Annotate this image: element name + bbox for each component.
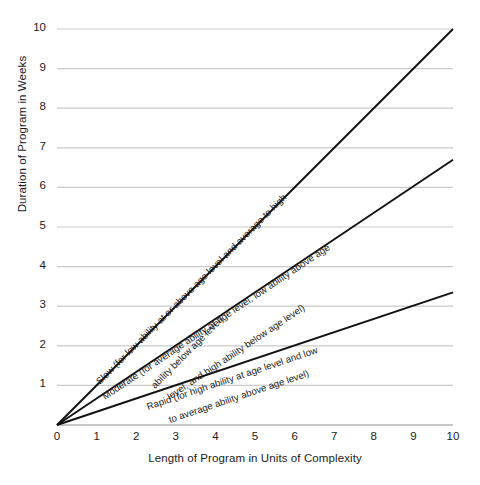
y-tick-3: 3 (26, 298, 46, 310)
y-tick-5: 5 (26, 219, 46, 231)
chart-plot-area: Slow (for low ability at or above age le… (0, 0, 480, 485)
y-tick-6: 6 (26, 179, 46, 191)
y-tick-10: 10 (26, 21, 46, 33)
y-tick-4: 4 (26, 259, 46, 271)
x-tick-8: 8 (364, 430, 384, 442)
x-tick-3: 3 (166, 430, 186, 442)
y-axis-title: Duration of Program in Weeks (16, 34, 28, 234)
x-tick-0: 0 (47, 430, 67, 442)
x-axis-title: Length of Program in Units of Complexity (57, 452, 453, 464)
y-tick-1: 1 (26, 377, 46, 389)
x-tick-10: 10 (443, 430, 463, 442)
x-tick-4: 4 (205, 430, 225, 442)
y-tick-8: 8 (26, 100, 46, 112)
y-tick-7: 7 (26, 140, 46, 152)
x-tick-7: 7 (324, 430, 344, 442)
y-tick-9: 9 (26, 61, 46, 73)
x-tick-9: 9 (403, 430, 423, 442)
y-tick-2: 2 (26, 338, 46, 350)
x-tick-5: 5 (245, 430, 265, 442)
x-tick-1: 1 (87, 430, 107, 442)
x-tick-6: 6 (285, 430, 305, 442)
x-tick-2: 2 (126, 430, 146, 442)
chart-container: Slow (for low ability at or above age le… (0, 0, 480, 485)
